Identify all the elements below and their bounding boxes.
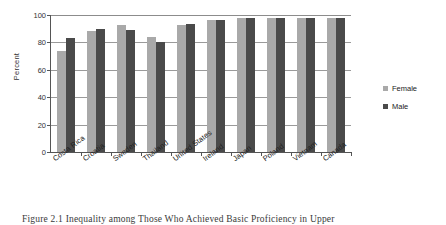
bar-female: [327, 18, 336, 152]
legend-item-label: Female: [392, 84, 417, 93]
bar-female: [177, 25, 186, 152]
bar-male: [96, 29, 105, 152]
bar-female: [297, 18, 306, 152]
x-axis-labels: Costa RicaCroatiaSwedenThailandUnited St…: [50, 156, 350, 201]
bar-group: [141, 15, 171, 152]
y-axis-tick-label: 60: [38, 65, 46, 74]
bar-female: [237, 18, 246, 152]
bar-male: [66, 38, 75, 152]
figure-caption: Figure 2.1 Inequality among Those Who Ac…: [22, 214, 432, 225]
y-axis-title: Percent: [12, 32, 21, 102]
bar-female: [57, 51, 66, 152]
legend-item-female[interactable]: Female: [383, 84, 417, 93]
bar-female: [147, 37, 156, 152]
bar-group: [51, 15, 81, 152]
y-axis-tick-label: 0: [42, 148, 46, 157]
legend-item-male[interactable]: Male: [383, 102, 417, 111]
y-axis-tick-label: 80: [38, 38, 46, 47]
figure-container: Percent 020406080100 Costa RicaCroatiaSw…: [0, 0, 446, 225]
bar-group: [81, 15, 111, 152]
x-axis-tick: [351, 152, 352, 156]
bar-female: [267, 18, 276, 152]
bar-male: [336, 18, 345, 152]
bar-female: [87, 31, 96, 152]
bar-male: [186, 24, 195, 152]
bar-group: [291, 15, 321, 152]
y-axis-tick: [47, 152, 51, 153]
bar-male: [216, 20, 225, 152]
bar-group: [171, 15, 201, 152]
bar-group: [261, 15, 291, 152]
y-axis-tick-label: 100: [33, 11, 46, 20]
bar-group: [321, 15, 351, 152]
bar-male: [306, 18, 315, 152]
bar-groups: [51, 15, 351, 152]
y-axis-tick-label: 20: [38, 120, 46, 129]
legend-item-label: Male: [392, 102, 408, 111]
bar-male: [246, 18, 255, 152]
chart-legend: FemaleMale: [383, 84, 417, 120]
bar-male: [156, 42, 165, 152]
legend-swatch-icon: [383, 86, 388, 91]
bar-male: [276, 18, 285, 152]
legend-swatch-icon: [383, 104, 388, 109]
bar-group: [231, 15, 261, 152]
bar-group: [111, 15, 141, 152]
bar-female: [117, 25, 126, 152]
y-axis-tick-label: 40: [38, 93, 46, 102]
bar-male: [126, 30, 135, 152]
